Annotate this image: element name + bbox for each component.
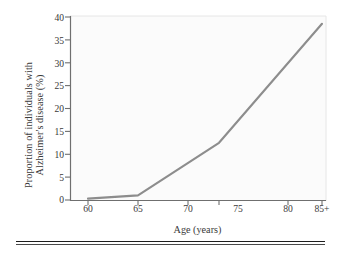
x-axis-title: Age (years): [70, 224, 325, 235]
plot-area: [0, 0, 341, 254]
y-tick-marks: [65, 17, 70, 200]
bottom-rule-thin: [16, 244, 325, 245]
bottom-rule-thick: [16, 241, 325, 242]
plot-background: [70, 16, 326, 201]
figure-container: Proportion of individuals with Alzheimer…: [0, 0, 341, 254]
x-tick-marks: [88, 201, 322, 205]
